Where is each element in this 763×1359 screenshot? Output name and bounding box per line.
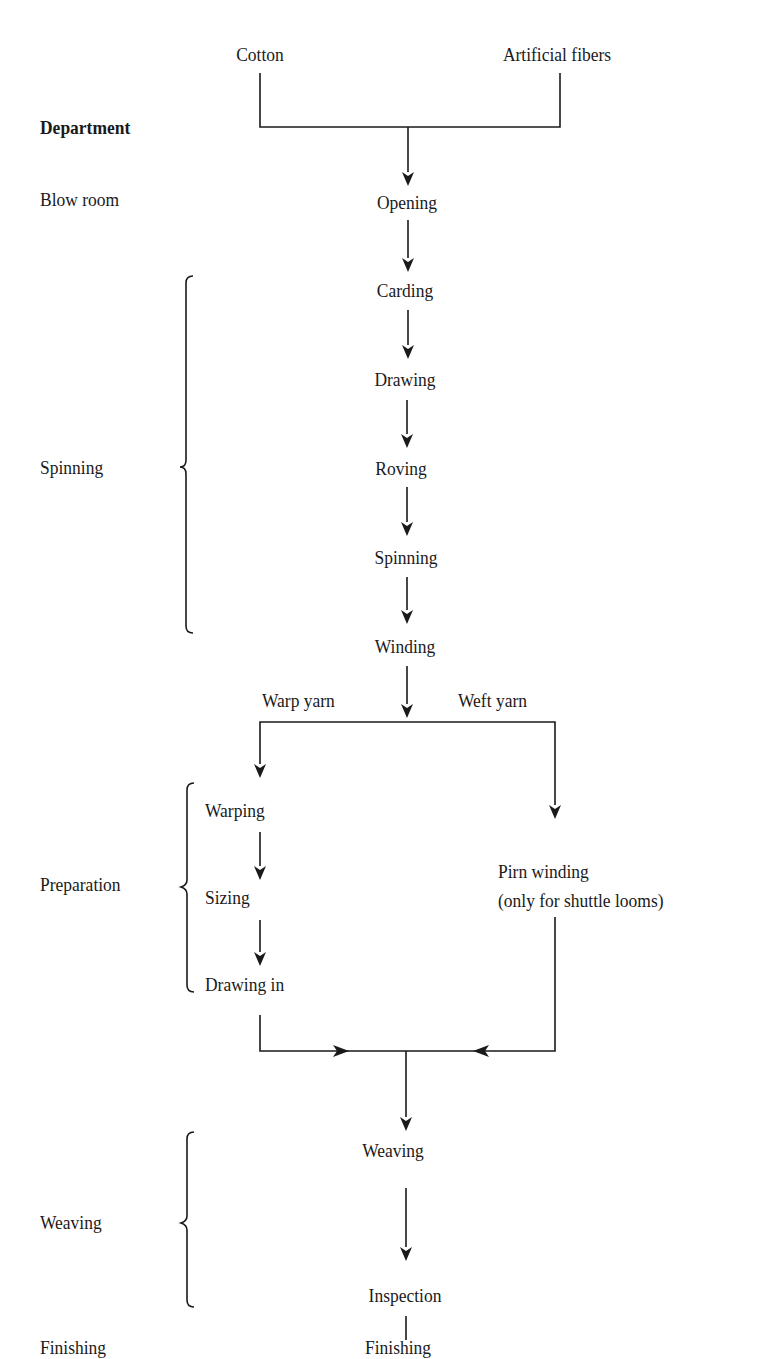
step-drawing-in: Drawing in bbox=[205, 974, 284, 996]
spinning-brace bbox=[180, 276, 193, 633]
step-sizing: Sizing bbox=[205, 887, 250, 909]
weaving-brace bbox=[181, 1132, 194, 1307]
step-pirn-winding-note: (only for shuttle looms) bbox=[498, 890, 664, 912]
dept-spinning: Spinning bbox=[40, 457, 103, 479]
step-inspection: Inspection bbox=[369, 1285, 442, 1307]
step-roving: Roving bbox=[375, 458, 426, 480]
merge-connector bbox=[260, 917, 555, 1051]
step-drawing: Drawing bbox=[374, 369, 435, 391]
dept-finishing: Finishing bbox=[40, 1337, 106, 1359]
step-warping: Warping bbox=[205, 800, 265, 822]
step-pirn-winding: Pirn winding bbox=[498, 861, 589, 883]
department-header: Department bbox=[40, 117, 130, 139]
step-finishing: Finishing bbox=[365, 1337, 431, 1359]
dept-blow-room: Blow room bbox=[40, 189, 119, 211]
input-cotton: Cotton bbox=[236, 44, 284, 66]
warp-weft-split bbox=[260, 722, 555, 805]
dept-preparation: Preparation bbox=[40, 874, 121, 896]
step-opening: Opening bbox=[377, 192, 437, 214]
step-carding: Carding bbox=[377, 280, 433, 302]
branch-weft-yarn: Weft yarn bbox=[458, 690, 527, 712]
cotton-connector bbox=[260, 73, 560, 127]
branch-warp-yarn: Warp yarn bbox=[262, 690, 335, 712]
dept-weaving: Weaving bbox=[40, 1212, 102, 1234]
step-weaving: Weaving bbox=[362, 1140, 424, 1162]
step-winding: Winding bbox=[375, 636, 435, 658]
preparation-brace bbox=[181, 783, 194, 992]
input-artificial-fibers: Artificial fibers bbox=[503, 44, 611, 66]
step-spinning: Spinning bbox=[374, 547, 437, 569]
